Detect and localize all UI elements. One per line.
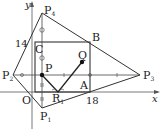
label-p4: P4 (44, 4, 55, 17)
label-p1: P1 (40, 110, 51, 123)
tick-label-18: 18 (86, 95, 99, 106)
svg-text:R1: R1 (52, 92, 64, 105)
svg-text:P1: P1 (40, 110, 51, 123)
label-p: P (45, 62, 53, 75)
label-r1: R1 (52, 92, 64, 105)
origin-label: O (22, 94, 31, 107)
tick-label-14: 14 (15, 38, 28, 49)
label-a: A (79, 79, 89, 92)
svg-text:P3: P3 (143, 69, 154, 82)
angle-marks (52, 89, 64, 90)
point-p (40, 73, 44, 77)
svg-text:P4: P4 (44, 4, 55, 17)
y-axis-label: y (24, 0, 31, 10)
geometry-diagram: y x O 14 18 P4 C B Q P P2 P3 A R1 P1 (0, 0, 164, 129)
svg-text:P2: P2 (2, 69, 13, 82)
x-axis-label: x (152, 93, 158, 104)
label-p2: P2 (2, 69, 13, 82)
label-p3: P3 (143, 69, 154, 82)
label-b: B (92, 31, 100, 44)
label-q: Q (78, 49, 87, 62)
label-c: C (35, 43, 43, 56)
